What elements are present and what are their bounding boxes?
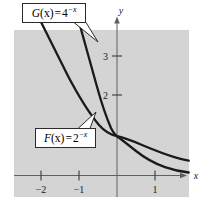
g-fn-name: G [32,7,40,19]
y-tick-label-2: 2 [103,90,108,101]
g-equation: G(x)=4−x [32,6,76,19]
f-equals-sign: = [64,132,73,144]
g-fn-arg: (x) [40,7,53,19]
x-tick-label-1: 1 [153,184,158,195]
exponential-graph-figure: −2 −1 1 2 3 y x G(x)=4−x F(x)=2−x [0,0,205,208]
y-axis-label: y [118,5,124,16]
x-axis-label: x [193,170,199,181]
plot-background [14,30,189,197]
f-fn-arg: (x) [51,132,64,144]
g-exponent: −x [68,5,76,14]
f-exponent: −x [79,130,87,139]
y-tick-label-3: 3 [103,51,108,62]
g-function-label: G(x)=4−x [22,3,86,23]
g-equals-sign: = [54,7,63,19]
f-fn-name: F [44,132,51,144]
x-tick-label-neg2: −2 [36,184,47,195]
f-equation: F(x)=2−x [44,131,87,144]
plot-canvas: −2 −1 1 2 3 y x [0,0,205,208]
f-function-label: F(x)=2−x [35,128,96,148]
x-tick-label-neg1: −1 [74,184,85,195]
